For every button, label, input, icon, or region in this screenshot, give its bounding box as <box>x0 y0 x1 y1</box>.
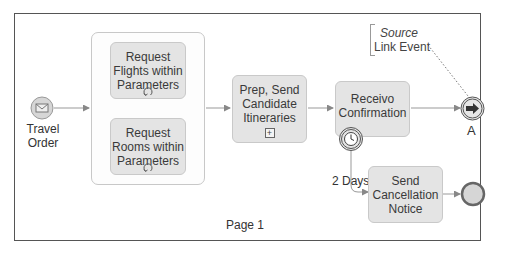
link-throw-event-icon[interactable] <box>460 96 485 121</box>
start-event-label: Travel Order <box>25 122 61 150</box>
loop-icon <box>143 86 154 97</box>
loop-icon <box>143 162 154 173</box>
message-start-event-icon[interactable] <box>30 96 54 120</box>
timer-icon[interactable] <box>338 126 364 152</box>
timer-flow-label: 2 Days <box>332 174 369 188</box>
task-send-cancellation-notice[interactable]: SendCancellationNotice <box>368 166 443 223</box>
task-request-rooms[interactable]: RequestRooms withinParameters <box>110 118 186 175</box>
link-event-label: A <box>467 124 476 138</box>
task-request-flights[interactable]: RequestFlights withinParameters <box>110 42 186 99</box>
text-annotation[interactable]: Source Link Event <box>370 24 434 56</box>
page-label: Page 1 <box>226 218 264 232</box>
subprocess-prep-send-itineraries[interactable]: Prep, SendCandidateItineraries + <box>232 75 307 143</box>
end-event-icon[interactable] <box>460 181 486 207</box>
plus-icon[interactable]: + <box>265 128 275 138</box>
